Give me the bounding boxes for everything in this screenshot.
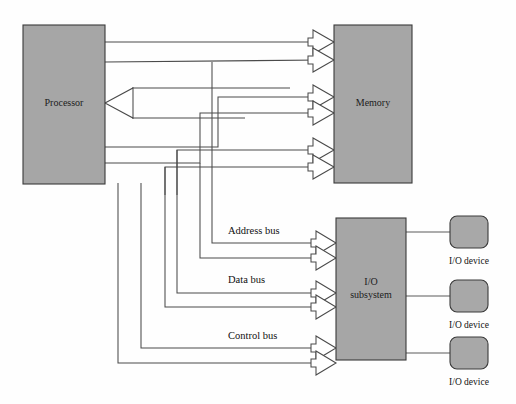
wire-control-to-memory-1 [177, 150, 322, 195]
arrowhead-memory-2 [308, 48, 334, 72]
wire-control-to-memory-2 [165, 167, 322, 195]
io-device-box-3 [450, 337, 488, 369]
wire-address-to-io-2 [200, 163, 327, 258]
wire-data-to-io-2 [165, 167, 327, 307]
io-device-label-2: I/O device [449, 320, 489, 330]
diagram-canvas: Processor Memory I/O subsystem I/O devic… [0, 0, 516, 404]
arrowhead-memory-6 [308, 155, 334, 179]
control-bus-label: Control bus [228, 330, 277, 341]
io-subsystem-label-line2: subsystem [350, 289, 392, 300]
arrowhead-into-processor [105, 88, 133, 118]
wire-data-to-memory-out [105, 97, 322, 147]
wire-address-to-memory-2 [105, 60, 322, 62]
processor-label: Processor [45, 97, 85, 108]
io-device-box-2 [450, 280, 488, 312]
arrowhead-memory-5 [308, 138, 334, 162]
io-subsystem-label-line1: I/O [364, 276, 377, 287]
address-bus-label: Address bus [228, 225, 280, 236]
io-device-box-1 [450, 216, 488, 248]
io-device-label-3: I/O device [449, 377, 489, 387]
memory-label: Memory [356, 97, 390, 108]
arrowhead-memory-1 [308, 30, 334, 54]
io-device-label-1: I/O device [449, 256, 489, 266]
wire-control-to-io-2 [118, 183, 327, 363]
bus-architecture-diagram: Processor Memory I/O subsystem I/O devic… [0, 0, 516, 404]
wire-data-to-memory-out-2 [105, 113, 322, 163]
data-bus-label: Data bus [228, 274, 265, 285]
wire-control-to-io-1 [141, 183, 327, 348]
